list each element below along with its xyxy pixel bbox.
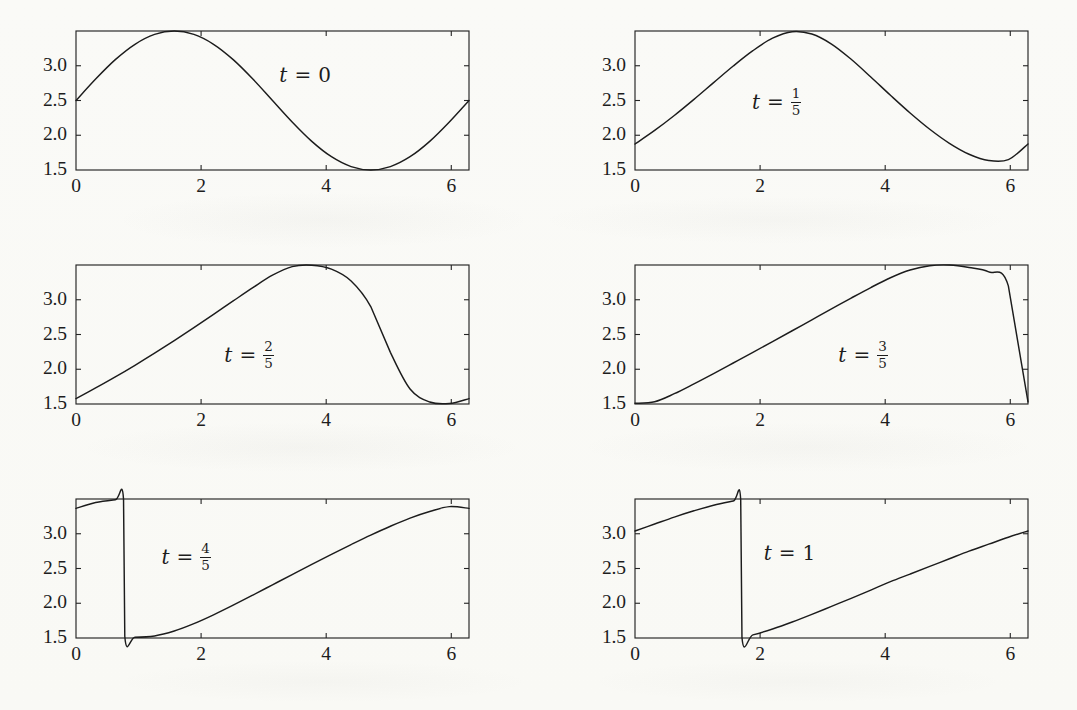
annotation-equals: =	[852, 343, 871, 367]
fraction-denominator: 5	[791, 104, 802, 118]
plot-area-0	[75, 30, 472, 173]
annotation-variable: t	[764, 541, 772, 565]
data-curve	[76, 489, 469, 647]
data-curve	[76, 265, 469, 404]
x-axis-tick-label: 2	[181, 643, 221, 665]
fraction-denominator: 5	[200, 559, 211, 573]
plot-panel-1: 1.52.02.53.00246t=15	[576, 20, 1049, 219]
x-axis-tick-label: 6	[431, 175, 471, 197]
annotation-fraction: 45	[200, 542, 211, 573]
plot-panel-5: 1.52.02.53.00246t=1	[576, 488, 1049, 687]
time-annotation: t=0	[279, 63, 331, 87]
x-axis-tick-label: 4	[306, 643, 346, 665]
x-axis-tick-label: 2	[740, 409, 780, 431]
y-axis-tick-label: 3.0	[576, 522, 626, 544]
plot-panel-0: 1.52.02.53.00246t=0	[17, 20, 490, 219]
fraction-denominator: 5	[877, 357, 888, 371]
annotation-variable: t	[279, 63, 287, 87]
x-axis-tick-label: 6	[990, 175, 1030, 197]
axis-frame	[76, 499, 469, 638]
data-curve	[635, 265, 1028, 403]
fraction-numerator: 1	[791, 87, 802, 101]
annotation-variable: t	[161, 545, 169, 569]
y-axis-tick-label: 3.0	[17, 522, 67, 544]
y-axis-tick-label: 2.5	[576, 323, 626, 345]
burgers-wave-figure: 1.52.02.53.00246t=01.52.02.53.00246t=151…	[0, 0, 1077, 710]
x-axis-tick-label: 2	[740, 643, 780, 665]
plot-panel-3: 1.52.02.53.00246t=35	[576, 254, 1049, 453]
x-axis-tick-label: 6	[431, 643, 471, 665]
fraction-numerator: 4	[200, 542, 211, 556]
plot-area-1	[634, 30, 1031, 173]
x-axis-tick-label: 0	[615, 409, 655, 431]
y-axis-tick-label: 3.0	[17, 54, 67, 76]
annotation-fraction: 35	[877, 340, 888, 371]
time-annotation: t=15	[752, 87, 801, 118]
x-axis-tick-label: 2	[740, 175, 780, 197]
x-axis-tick-label: 4	[306, 409, 346, 431]
x-axis-tick-label: 4	[306, 175, 346, 197]
fraction-numerator: 2	[263, 340, 274, 354]
y-axis-tick-label: 2.5	[576, 557, 626, 579]
time-annotation: t=25	[224, 340, 273, 371]
x-axis-tick-label: 4	[865, 409, 905, 431]
x-axis-tick-label: 6	[990, 409, 1030, 431]
y-axis-tick-label: 2.0	[17, 123, 67, 145]
plot-area-2	[75, 264, 472, 407]
annotation-equals: =	[176, 545, 195, 569]
x-axis-tick-label: 6	[990, 643, 1030, 665]
annotation-variable: t	[752, 90, 760, 114]
x-axis-tick-label: 0	[615, 175, 655, 197]
plot-panel-4: 1.52.02.53.00246t=45	[17, 488, 490, 687]
fraction-numerator: 3	[877, 340, 888, 354]
annotation-fraction: 15	[791, 87, 802, 118]
annotation-equals: =	[766, 90, 785, 114]
data-curve	[76, 31, 469, 170]
annotation-fraction: 25	[263, 340, 274, 371]
axis-frame	[635, 499, 1028, 638]
time-annotation: t=1	[764, 541, 816, 565]
annotation-equals: =	[778, 541, 797, 565]
y-axis-tick-label: 2.0	[17, 357, 67, 379]
annotation-equals: =	[293, 63, 312, 87]
data-curve	[635, 31, 1028, 161]
annotation-equals: =	[238, 343, 257, 367]
annotation-variable: t	[224, 343, 232, 367]
annotation-variable: t	[838, 343, 846, 367]
y-axis-tick-label: 2.0	[576, 123, 626, 145]
y-axis-tick-label: 3.0	[17, 288, 67, 310]
x-axis-tick-label: 2	[181, 409, 221, 431]
time-annotation: t=45	[161, 542, 210, 573]
time-annotation: t=35	[838, 340, 887, 371]
data-curve	[635, 490, 1028, 647]
plot-panel-2: 1.52.02.53.00246t=25	[17, 254, 490, 453]
y-axis-tick-label: 3.0	[576, 54, 626, 76]
y-axis-tick-label: 2.5	[17, 557, 67, 579]
x-axis-tick-label: 6	[431, 409, 471, 431]
x-axis-tick-label: 2	[181, 175, 221, 197]
x-axis-tick-label: 4	[865, 175, 905, 197]
x-axis-tick-label: 0	[56, 409, 96, 431]
annotation-value: 1	[803, 541, 816, 565]
y-axis-tick-label: 2.5	[17, 89, 67, 111]
axis-frame	[76, 265, 469, 404]
y-axis-tick-label: 2.0	[576, 591, 626, 613]
plot-area-3	[634, 264, 1031, 407]
y-axis-tick-label: 2.0	[17, 591, 67, 613]
plot-area-4	[75, 498, 472, 641]
y-axis-tick-label: 2.5	[576, 89, 626, 111]
x-axis-tick-label: 4	[865, 643, 905, 665]
y-axis-tick-label: 2.0	[576, 357, 626, 379]
x-axis-tick-label: 0	[615, 643, 655, 665]
y-axis-tick-label: 2.5	[17, 323, 67, 345]
x-axis-tick-label: 0	[56, 175, 96, 197]
annotation-value: 0	[318, 63, 331, 87]
plot-area-5	[634, 498, 1031, 641]
fraction-denominator: 5	[263, 357, 274, 371]
y-axis-tick-label: 3.0	[576, 288, 626, 310]
x-axis-tick-label: 0	[56, 643, 96, 665]
axis-frame	[635, 31, 1028, 170]
